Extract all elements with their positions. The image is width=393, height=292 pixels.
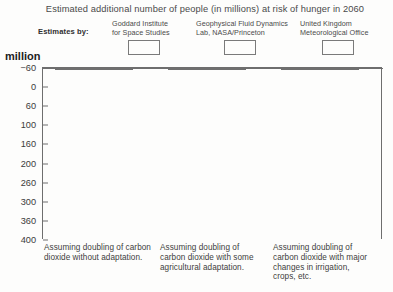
y-axis-tick-mark bbox=[43, 182, 48, 183]
y-axis-tick-label: 400 bbox=[0, 235, 36, 245]
plot-inner: −60060100160200260300360400 bbox=[43, 68, 381, 239]
chart-legend: Estimates by: Goddard Institute for Spac… bbox=[0, 20, 393, 62]
bar bbox=[81, 68, 107, 70]
bar bbox=[220, 68, 246, 70]
legend-item-gfdl: Geophysical Fluid Dynamics Lab, NASA/Pri… bbox=[196, 20, 288, 55]
y-axis-tick-label: −60 bbox=[0, 63, 36, 73]
y-axis-tick-label: 160 bbox=[0, 139, 36, 149]
legend-label: Goddard Institute for Space Studies bbox=[112, 20, 170, 37]
chart-container: Estimated additional number of people (i… bbox=[0, 0, 393, 292]
legend-swatch bbox=[224, 40, 256, 55]
bar bbox=[55, 68, 81, 70]
legend-item-ukmo: United Kingdom Meteorological Office bbox=[300, 20, 368, 55]
category-label: Assuming doubling of carbon dioxide with… bbox=[160, 243, 270, 272]
y-axis-tick-mark bbox=[43, 240, 48, 241]
plot-area: −60060100160200260300360400 bbox=[42, 67, 382, 239]
legend-label: Geophysical Fluid Dynamics Lab, NASA/Pri… bbox=[196, 20, 288, 37]
y-axis-tick-label: 360 bbox=[0, 216, 36, 226]
bar bbox=[107, 68, 133, 70]
bar bbox=[333, 68, 359, 70]
bar bbox=[194, 68, 220, 70]
y-axis-tick-mark bbox=[43, 125, 48, 126]
bar bbox=[281, 68, 307, 70]
y-axis-unit-label: million bbox=[5, 50, 40, 62]
y-axis-tick-mark bbox=[43, 106, 48, 107]
legend-item-goddard: Goddard Institute for Space Studies bbox=[112, 20, 170, 55]
bar bbox=[168, 68, 194, 70]
y-axis-tick-label: 300 bbox=[0, 197, 36, 207]
y-axis-tick-label: 200 bbox=[0, 159, 36, 169]
y-axis-tick-mark bbox=[43, 163, 48, 164]
y-axis-tick-label: 60 bbox=[0, 101, 36, 111]
legend-label: United Kingdom Meteorological Office bbox=[300, 20, 368, 37]
chart-title: Estimated additional number of people (i… bbox=[30, 4, 380, 15]
y-axis-tick-mark bbox=[43, 144, 48, 145]
y-axis-tick-label: 100 bbox=[0, 120, 36, 130]
category-label: Assuming doubling of carbon dioxide with… bbox=[273, 243, 388, 282]
legend-swatch bbox=[322, 40, 354, 55]
y-axis-tick-mark bbox=[43, 87, 48, 88]
legend-swatch bbox=[128, 40, 160, 55]
y-axis-tick-label: 0 bbox=[0, 82, 36, 92]
y-axis-tick-label: 260 bbox=[0, 178, 36, 188]
legend-title: Estimates by: bbox=[38, 27, 89, 36]
bar bbox=[307, 68, 333, 70]
y-axis-tick-mark bbox=[43, 220, 48, 221]
y-axis-tick-mark bbox=[43, 201, 48, 202]
category-label: Assuming doubling of carbon dioxide with… bbox=[44, 243, 164, 263]
